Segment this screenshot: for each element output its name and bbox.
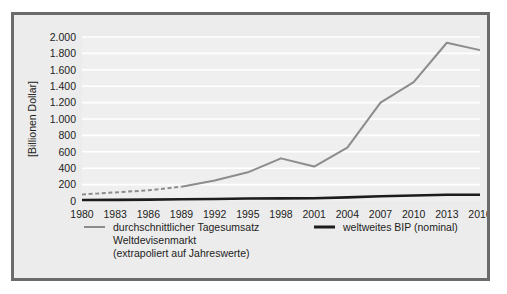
legend-label-line: Weltdevisenmarkt: [113, 234, 196, 246]
x-tick-label: 1989: [170, 208, 194, 220]
x-tick-label: 1980: [70, 208, 94, 220]
x-tick-label: 2010: [402, 208, 426, 220]
y-axis-title: [Billionen Dollar]: [26, 81, 38, 157]
x-tick-label: 2001: [302, 208, 326, 220]
x-tick-label: 1983: [103, 208, 127, 220]
legend-entry-2: weltweites BIP (nominal): [314, 221, 458, 233]
x-tick-label: 2004: [336, 208, 360, 220]
y-tick-label: 0: [70, 195, 76, 207]
y-tick-label: 1.800: [50, 47, 76, 59]
x-tick-label: 1998: [269, 208, 293, 220]
x-tick-label: 2007: [369, 208, 393, 220]
y-tick-label: 1.000: [50, 113, 76, 125]
legend-label-line: weltweites BIP (nominal): [342, 221, 458, 233]
y-tick-label: 600: [58, 146, 76, 158]
y-tick-label: 2.000: [50, 31, 76, 43]
y-axis-tick-labels: 02004006008001.0001.2001.4001.6001.8002.…: [50, 31, 76, 207]
x-tick-label: 1986: [137, 208, 161, 220]
legend-label-line: durchschnittlicher Tagesumsatz: [113, 221, 259, 233]
x-tick-label: 2016: [468, 208, 487, 220]
x-tick-label: 1995: [236, 208, 260, 220]
x-tick-label: 2013: [435, 208, 459, 220]
y-tick-label: 1.200: [50, 96, 76, 108]
legend: durchschnittlicher TagesumsatzWeltdevise…: [84, 221, 458, 259]
y-tick-label: 1.400: [50, 80, 76, 92]
line-chart: 02004006008001.0001.2001.4001.6001.8002.…: [14, 15, 487, 278]
legend-label-line: (extrapoliert auf Jahreswerte): [113, 247, 250, 259]
chart-frame: 02004006008001.0001.2001.4001.6001.8002.…: [11, 12, 490, 281]
y-tick-label: 800: [58, 129, 76, 141]
legend-entry-1: durchschnittlicher TagesumsatzWeltdevise…: [84, 221, 259, 259]
y-tick-label: 1.600: [50, 64, 76, 76]
y-tick-label: 200: [58, 178, 76, 190]
y-tick-label: 400: [58, 162, 76, 174]
x-axis-tick-labels: 1980198319861989199219951998200120042007…: [70, 208, 487, 220]
x-tick-label: 1992: [203, 208, 227, 220]
figure-root: 02004006008001.0001.2001.4001.6001.8002.…: [0, 0, 507, 294]
